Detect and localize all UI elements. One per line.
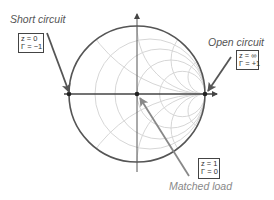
- matched-load-values: z = 1 Γ = 0: [198, 158, 220, 179]
- short-circuit-point: [67, 92, 72, 97]
- short-circuit-values: z = 0 Γ = −1: [18, 33, 44, 53]
- short-circuit-gamma: Γ = −1: [21, 43, 41, 52]
- smith-chart: [0, 0, 274, 200]
- matched-load-point: [135, 92, 140, 97]
- short-circuit-label: Short circuit: [10, 14, 65, 25]
- open-circuit-point: [203, 92, 208, 97]
- open-circuit-gamma: Γ = +1: [239, 60, 256, 69]
- open-circuit-arrow: [208, 57, 231, 91]
- matched-load-gamma: Γ = 0: [201, 168, 217, 177]
- short-circuit-arrow: [47, 33, 69, 92]
- open-circuit-values: z = ∞ Γ = +1: [236, 50, 259, 70]
- reactance-arcs: [69, 0, 274, 200]
- open-circuit-label: Open circuit: [208, 37, 264, 48]
- matched-load-label: Matched load: [169, 181, 232, 192]
